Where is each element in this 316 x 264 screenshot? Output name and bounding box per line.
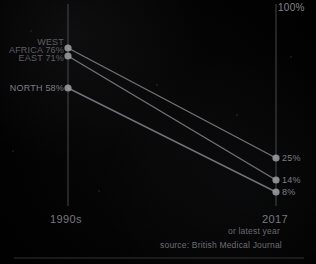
label-north-start: NORTH 58% <box>0 83 64 93</box>
axis-note-or-latest-year: or latest year <box>228 226 280 236</box>
label-east-end: 14% <box>282 175 301 185</box>
marker-west-africa-end <box>272 154 279 161</box>
marker-east-start <box>64 52 71 59</box>
marker-north-start <box>64 84 71 91</box>
axis-top-percent-label: 100% <box>278 2 305 13</box>
label-west-africa-end: 25% <box>282 153 301 163</box>
marker-north-end <box>272 188 279 195</box>
axis-label-2017: 2017 <box>262 213 288 225</box>
source-credit: source: British Medical Journal <box>160 240 282 250</box>
marker-west-africa-start <box>64 44 71 51</box>
axis-label-1990s: 1990s <box>50 213 82 225</box>
label-east-start: EAST 71% <box>0 53 64 63</box>
slope-chart: 100% WEST AFRICA 76% EAST 71% NORTH 58% … <box>0 0 316 264</box>
marker-east-end <box>272 176 279 183</box>
label-north-end: 8% <box>282 187 295 197</box>
series-line-east <box>68 56 276 180</box>
